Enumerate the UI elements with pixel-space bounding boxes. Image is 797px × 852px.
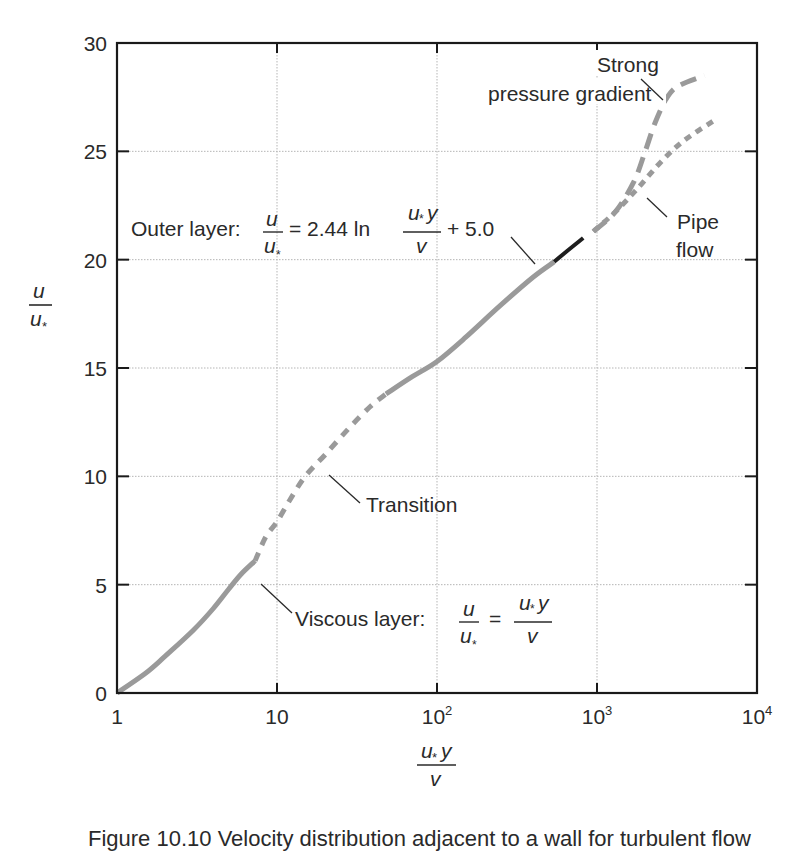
x-tick-label: 103: [582, 703, 613, 728]
svg-text:Viscous layer:: Viscous layer:: [295, 607, 425, 630]
svg-text:Strong: Strong: [597, 53, 659, 76]
svg-text:v: v: [416, 234, 428, 257]
x-tick-label: 102: [422, 703, 453, 728]
x-tick-labels: 110102103104: [111, 703, 772, 728]
svg-text:*: *: [419, 212, 424, 226]
y-tick-label: 0: [95, 682, 107, 705]
svg-text:*: *: [42, 319, 47, 334]
data-series: [117, 76, 717, 694]
transition-annotation: Transition: [329, 475, 457, 516]
series-outer-layer-overlap: [554, 238, 583, 262]
transition-leader-line: [329, 475, 360, 503]
svg-text:v: v: [527, 624, 539, 647]
y-tick-label: 10: [84, 465, 107, 488]
y-tick-labels: 051015202530: [84, 32, 107, 705]
svg-text:= 2.44 ln: = 2.44 ln: [289, 217, 370, 240]
svg-text:y: y: [439, 739, 453, 762]
svg-text:y: y: [536, 591, 550, 614]
svg-text:u: u: [460, 624, 472, 647]
y-tick-label: 25: [84, 140, 107, 163]
y-tick-label: 5: [95, 574, 107, 597]
svg-text:u: u: [463, 597, 475, 620]
svg-text:Outer layer:: Outer layer:: [131, 217, 241, 240]
svg-text:=: =: [489, 607, 501, 630]
grid-lines: [117, 43, 757, 693]
y-tick-label: 20: [84, 249, 107, 272]
svg-text:*: *: [530, 602, 535, 616]
x-tick-label: 10: [265, 705, 288, 728]
svg-text:flow: flow: [676, 238, 714, 261]
viscous-leader-line: [261, 584, 292, 613]
series-outer-layer-log-law: [386, 262, 554, 394]
strong-gradient-annotation: Strong pressure gradient: [484, 50, 667, 105]
figure-caption: Figure 10.10 Velocity distribution adjac…: [88, 826, 751, 852]
svg-text:Pipe: Pipe: [677, 210, 719, 233]
svg-text:u: u: [30, 307, 42, 330]
series-transition: [255, 394, 386, 561]
svg-text:*: *: [432, 750, 437, 765]
svg-text:u: u: [266, 207, 278, 230]
svg-text:u: u: [33, 279, 45, 302]
svg-text:pressure gradient: pressure gradient: [488, 82, 652, 105]
pipe-flow-leader-line: [647, 198, 667, 217]
series-viscous-layer: [117, 561, 255, 693]
svg-text:*: *: [276, 248, 281, 262]
svg-text:Transition: Transition: [366, 493, 457, 516]
svg-text:v: v: [430, 767, 442, 790]
outer-layer-annotation: Outer layer: u u * = 2.44 ln u * y v + 5…: [131, 201, 535, 264]
x-axis-label: u * y v: [417, 739, 456, 790]
y-axis-label: u u *: [29, 279, 52, 334]
svg-text:y: y: [425, 201, 439, 224]
svg-text:*: *: [472, 638, 477, 652]
svg-text:u: u: [264, 234, 276, 257]
y-tick-label: 15: [84, 357, 107, 380]
x-tick-label: 1: [111, 705, 123, 728]
x-tick-label: 104: [742, 703, 773, 728]
y-tick-label: 30: [84, 32, 107, 55]
svg-text:+ 5.0: + 5.0: [447, 217, 494, 240]
pipe-flow-annotation: Pipe flow: [647, 198, 719, 261]
viscous-layer-annotation: Viscous layer: u u * = u * y v: [261, 584, 552, 652]
